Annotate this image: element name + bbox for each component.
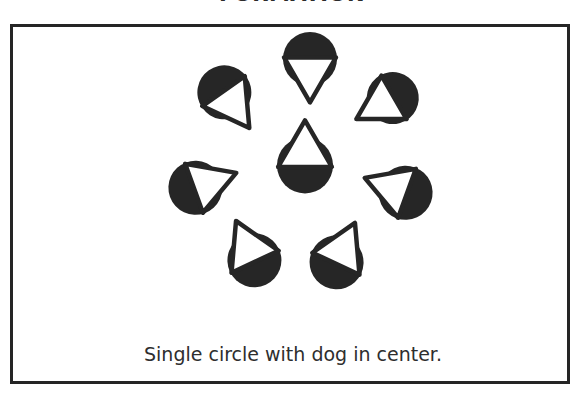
page-title: FORMATION (0, 0, 584, 6)
stimulus-canvas (13, 27, 573, 317)
stimulus-area (13, 27, 573, 317)
circle-triangle-glyph (301, 212, 380, 299)
circle-triangle-glyph (212, 210, 291, 297)
circle-triangle-glyph (343, 63, 428, 142)
figure-page: FORMATION Single circle with dog in cent… (0, 0, 584, 406)
figure-caption: Single circle with dog in center. (13, 343, 573, 365)
circle-triangle-glyph (277, 120, 333, 193)
circle-triangle-glyph (283, 32, 337, 103)
white-triangle (278, 120, 332, 167)
figure-plate: Single circle with dog in center. (10, 24, 570, 384)
circle-triangle-glyph (356, 153, 441, 228)
circle-triangle-glyph (187, 55, 272, 144)
circle-triangle-glyph (161, 148, 246, 223)
white-triangle (284, 57, 336, 102)
glyph-layer (161, 32, 440, 298)
